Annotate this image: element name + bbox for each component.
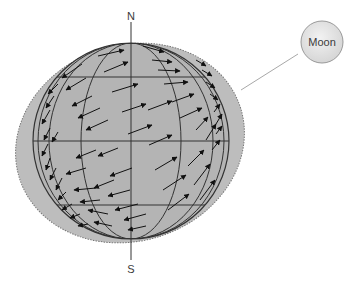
- north-label: N: [127, 10, 135, 22]
- moon-connector-line: [241, 54, 298, 90]
- moon-label: Moon: [308, 36, 336, 48]
- tidal-force-diagram: Moon N S: [0, 0, 360, 281]
- south-label: S: [127, 263, 134, 275]
- moon: Moon: [301, 21, 343, 63]
